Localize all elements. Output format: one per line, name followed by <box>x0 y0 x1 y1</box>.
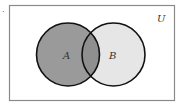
set-b-label: B <box>108 50 116 61</box>
venn-diagram: . A B U <box>0 0 177 105</box>
set-a-label: A <box>62 50 70 61</box>
universe-label: U <box>157 13 166 24</box>
figure-marker: . <box>2 5 5 14</box>
